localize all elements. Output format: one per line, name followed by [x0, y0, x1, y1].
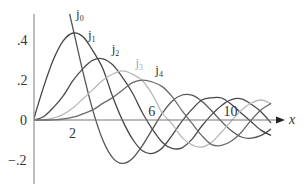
chart: x 2610.4.20−.2 j0j1j2j3j4 [0, 0, 307, 188]
label-j1: j1 [87, 27, 96, 44]
y-tick-label: .4 [17, 33, 28, 48]
label-j0: j0 [75, 6, 84, 23]
label-j2: j2 [111, 41, 120, 58]
x-axis-label: x [288, 112, 296, 127]
label-j3: j3 [134, 55, 143, 72]
y-tick-label: 0 [20, 113, 27, 128]
x-tick-label: 6 [148, 104, 155, 119]
y-tick-label: .2 [17, 73, 28, 88]
axis-ticks: 2610.4.20−.2 [8, 33, 238, 168]
label-j4: j4 [154, 62, 163, 79]
x-tick-label: 2 [69, 126, 76, 141]
x-axis-arrow-icon [276, 117, 285, 124]
y-tick-label: −.2 [8, 153, 26, 168]
x-tick-label: 10 [224, 104, 238, 119]
